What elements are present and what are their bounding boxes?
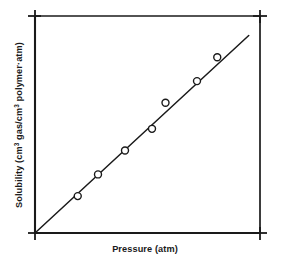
- data-point: [149, 125, 156, 132]
- x-axis-label: Pressure (atm): [112, 244, 178, 254]
- chart-canvas: Pressure (atm) Solubility (cm3 gas/cm3 p…: [0, 0, 282, 262]
- data-point: [214, 54, 221, 61]
- data-point: [162, 99, 169, 106]
- y-axis-label: Solubility (cm3 gas/cm3 polymer·atm): [13, 42, 25, 208]
- data-point: [95, 171, 102, 178]
- data-point: [122, 147, 129, 154]
- data-point: [74, 193, 81, 200]
- figure-background: [0, 0, 282, 262]
- data-point: [194, 78, 201, 85]
- chart-figure: Pressure (atm) Solubility (cm3 gas/cm3 p…: [0, 0, 282, 262]
